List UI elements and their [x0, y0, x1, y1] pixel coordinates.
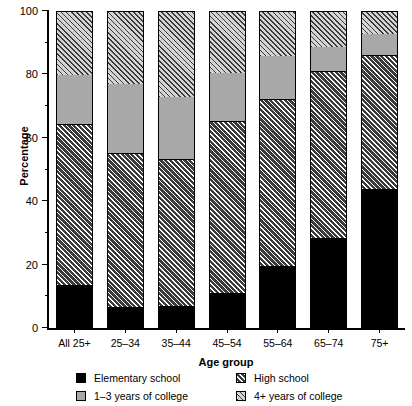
y-axis-tick	[42, 73, 49, 74]
bar-segment[interactable]	[362, 190, 397, 327]
stacked-bar[interactable]	[158, 11, 195, 328]
x-axis-tick-label: 25–34	[111, 337, 140, 349]
x-axis-title: Age group	[47, 356, 405, 368]
legend-swatch-icon	[236, 391, 246, 401]
y-axis-tick-label: 0	[32, 322, 38, 334]
y-axis-tick-label: 100	[20, 5, 38, 17]
bar-segment[interactable]	[108, 154, 143, 308]
bar-segment[interactable]	[311, 47, 346, 72]
bar-segment[interactable]	[108, 84, 143, 153]
bar-slot: 45–54	[202, 11, 253, 328]
x-axis-tick	[379, 328, 380, 333]
y-axis-tick	[42, 327, 49, 328]
x-axis-tick-label: 45–54	[212, 337, 241, 349]
y-axis-tick-label: 40	[26, 195, 38, 207]
bar-segment[interactable]	[311, 72, 346, 239]
legend-swatch-icon	[76, 373, 86, 383]
bar-slot: All 25+	[49, 11, 100, 328]
legend-item[interactable]: High school	[236, 372, 396, 384]
bar-segment[interactable]	[362, 12, 397, 34]
x-axis-tick	[176, 328, 177, 333]
plot-area: 020406080100 All 25+25–3435–4445–5455–64…	[47, 11, 405, 330]
y-axis-tick-label: 20	[26, 259, 38, 271]
y-axis-tick	[42, 10, 49, 11]
legend-item[interactable]: 1–3 years of college	[76, 390, 236, 402]
bar-segment[interactable]	[260, 267, 295, 327]
bar-segment[interactable]	[57, 12, 92, 75]
bar-slot: 35–44	[151, 11, 202, 328]
bar-segment[interactable]	[210, 122, 245, 294]
legend-label: High school	[254, 372, 309, 384]
bar-slot: 75+	[354, 11, 405, 328]
x-axis-tick-label: 75+	[371, 337, 389, 349]
y-axis-tick	[42, 200, 49, 201]
y-axis-tick-label: 80	[26, 68, 38, 80]
legend-swatch-icon	[236, 373, 246, 383]
bar-segment[interactable]	[159, 307, 194, 327]
bar-segment[interactable]	[362, 56, 397, 190]
bar-segment[interactable]	[260, 12, 295, 56]
x-axis-tick-label: 35–44	[162, 337, 191, 349]
bar-segment[interactable]	[210, 73, 245, 122]
x-axis-tick	[227, 328, 228, 333]
legend-label: 1–3 years of college	[94, 390, 188, 402]
x-axis-tick	[74, 328, 75, 333]
x-axis-tick-label: 65–74	[314, 337, 343, 349]
bar-slot: 25–34	[100, 11, 151, 328]
stacked-bar[interactable]	[107, 11, 144, 328]
stacked-bar[interactable]	[209, 11, 246, 328]
bar-slot: 55–64	[252, 11, 303, 328]
bar-segment[interactable]	[108, 308, 143, 327]
bar-segment[interactable]	[210, 294, 245, 327]
legend-label: 4+ years of college	[254, 390, 342, 402]
bar-segment[interactable]	[311, 12, 346, 47]
bar-segment[interactable]	[260, 100, 295, 267]
bar-segment[interactable]	[210, 12, 245, 73]
chart-figure: Percentage 020406080100 All 25+25–3435–4…	[0, 0, 412, 406]
bar-segment[interactable]	[159, 12, 194, 97]
bar-segment[interactable]	[159, 97, 194, 160]
legend-label: Elementary school	[94, 372, 180, 384]
bar-segment[interactable]	[57, 75, 92, 125]
bars-group: All 25+25–3435–4445–5455–6465–7475+	[49, 11, 405, 328]
bar-segment[interactable]	[108, 12, 143, 84]
stacked-bar[interactable]	[56, 11, 93, 328]
x-axis-tick-label: 55–64	[263, 337, 292, 349]
x-axis-tick	[328, 328, 329, 333]
legend-item[interactable]: 4+ years of college	[236, 390, 396, 402]
legend-item[interactable]: Elementary school	[76, 372, 236, 384]
x-axis-tick	[125, 328, 126, 333]
bar-segment[interactable]	[311, 239, 346, 327]
bar-segment[interactable]	[260, 56, 295, 100]
y-axis-tick	[42, 264, 49, 265]
bar-segment[interactable]	[159, 160, 194, 306]
y-axis-tick	[42, 137, 49, 138]
stacked-bar[interactable]	[259, 11, 296, 328]
bar-segment[interactable]	[57, 286, 92, 327]
x-axis-tick-label: All 25+	[58, 337, 90, 349]
stacked-bar[interactable]	[361, 11, 398, 328]
y-axis-tick-label: 60	[26, 132, 38, 144]
x-axis-tick	[277, 328, 278, 333]
bar-segment[interactable]	[57, 125, 92, 286]
bar-segment[interactable]	[362, 34, 397, 56]
chart-legend: Elementary schoolHigh school1–3 years of…	[76, 372, 396, 402]
legend-swatch-icon	[76, 391, 86, 401]
bar-slot: 65–74	[303, 11, 354, 328]
stacked-bar[interactable]	[310, 11, 347, 328]
